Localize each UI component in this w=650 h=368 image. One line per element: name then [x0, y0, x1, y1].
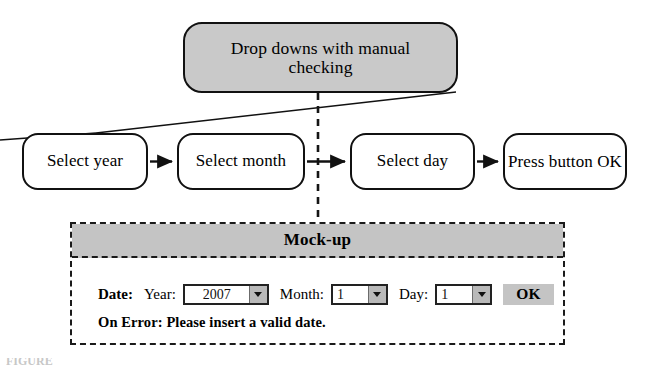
error-message: On Error: Please insert a valid date. — [98, 314, 326, 331]
mockup-body: Date: Year: 2007 Month: 1 Day: — [72, 258, 563, 343]
year-select[interactable]: 2007 — [183, 284, 269, 305]
month-label: Month: — [280, 286, 324, 303]
figure-caption: FIGURE — [6, 358, 53, 368]
ok-button[interactable]: OK — [503, 284, 554, 305]
node-select-year-label: Select year — [47, 152, 123, 170]
top-node-label: Drop downs with manual checking — [197, 39, 444, 76]
day-select-value: 1 — [437, 286, 472, 303]
mockup-title: Mock-up — [284, 230, 352, 250]
mockup-title-bar: Mock-up — [72, 224, 563, 258]
chevron-down-icon — [254, 292, 262, 297]
month-select[interactable]: 1 — [331, 284, 388, 305]
date-form-row: Date: Year: 2007 Month: 1 Day: — [98, 284, 554, 305]
node-select-year: Select year — [22, 133, 148, 190]
mockup-panel: Mock-up Date: Year: 2007 Month: 1 — [70, 222, 565, 345]
node-select-month: Select month — [177, 133, 305, 190]
chevron-down-icon — [373, 292, 381, 297]
figure-canvas: Drop downs with manual checking Select y… — [0, 0, 650, 368]
year-select-arrow-button[interactable] — [249, 286, 267, 303]
day-select-arrow-button[interactable] — [472, 286, 490, 303]
month-select-arrow-button[interactable] — [368, 286, 386, 303]
node-press-button-ok: Press button OK — [503, 133, 627, 190]
year-label: Year: — [144, 286, 176, 303]
chevron-down-icon — [478, 292, 486, 297]
day-label: Day: — [399, 286, 428, 303]
figure-caption-strip: FIGURE — [0, 358, 650, 368]
node-select-day-label: Select day — [377, 152, 448, 170]
month-select-value: 1 — [333, 286, 368, 303]
node-press-button-ok-label: Press button OK — [508, 152, 622, 171]
day-select[interactable]: 1 — [435, 284, 492, 305]
date-label: Date: — [98, 286, 133, 303]
year-select-value: 2007 — [185, 286, 249, 303]
node-select-day: Select day — [350, 133, 475, 190]
node-select-month-label: Select month — [196, 152, 286, 170]
node-drop-downs-with-manual-checking: Drop downs with manual checking — [183, 22, 458, 93]
